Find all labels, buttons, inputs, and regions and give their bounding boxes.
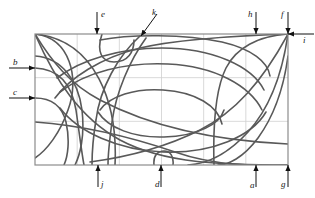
callout-label-g: g (281, 180, 286, 189)
diagram-canvas (0, 0, 315, 198)
callout-label-h: h (248, 10, 253, 19)
callout-label-c: c (13, 88, 17, 97)
callout-label-b: b (13, 58, 18, 67)
callout-label-k: k (152, 8, 156, 17)
callout-label-f: f (281, 10, 284, 19)
callout-label-i: i (303, 36, 306, 45)
callout-arrow-k (141, 14, 157, 36)
curve-path (188, 34, 288, 165)
curve-path (60, 64, 262, 110)
curve-path (35, 34, 73, 158)
callout-label-a: a (250, 181, 255, 190)
figure-container: bcekhfijdag (0, 0, 315, 198)
curve-path (35, 68, 84, 165)
callout-label-j: j (101, 180, 104, 189)
curve-path (55, 34, 288, 98)
callout-label-d: d (155, 180, 160, 189)
callout-label-e: e (101, 10, 105, 19)
